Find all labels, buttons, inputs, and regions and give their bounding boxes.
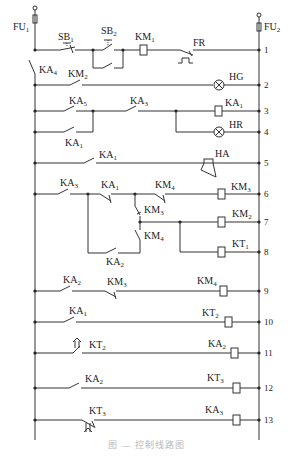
svg-text:11: 11 (264, 348, 273, 358)
sb2-label: SB2 (101, 25, 117, 38)
rung-11 (33, 338, 260, 358)
ka2-coil-label: KA2 (208, 338, 226, 351)
rung-2 (33, 80, 260, 90)
rung-1 (33, 40, 260, 68)
ka3-coil-label: KA3 (205, 404, 223, 417)
kt2-coil (225, 317, 232, 327)
km2-coil-label: KM2 (232, 208, 252, 221)
svg-text:7: 7 (264, 217, 269, 227)
svg-text:8: 8 (264, 247, 269, 257)
km2-coil (218, 217, 225, 227)
kt3-r13-label: KT3 (89, 405, 106, 418)
ka3-coil (233, 415, 240, 425)
km2-contact-label: KM2 (68, 68, 88, 81)
rung-5 (33, 158, 260, 177)
rung-12 (33, 383, 260, 393)
ka2-coil (231, 348, 238, 358)
svg-text:3: 3 (264, 106, 269, 116)
km3-r9-label: KM3 (107, 276, 127, 289)
left-rail (29, 6, 37, 440)
km4-r8-label: KM4 (144, 230, 164, 243)
rung-10 (33, 317, 260, 327)
rung-6-7-8 (33, 189, 260, 257)
hg-label: HG (229, 71, 243, 82)
svg-text:4: 4 (264, 127, 269, 137)
ha-label: HA (215, 148, 230, 159)
rung-9 (33, 286, 260, 299)
svg-text:12: 12 (264, 383, 273, 393)
ka2-r9-label: KA2 (63, 274, 81, 287)
ka1-coil (215, 106, 222, 116)
ka3-contact-label: KA3 (130, 95, 148, 108)
sb1-label: SB1 (58, 31, 74, 44)
svg-text:5: 5 (264, 158, 269, 168)
kt3-coil-label: KT3 (207, 372, 224, 385)
fr-label: FR (193, 37, 206, 48)
timer-off-delay-icon (84, 423, 92, 432)
km1-label: KM1 (135, 31, 155, 44)
km3-r7-label: KM3 (144, 204, 164, 217)
svg-text:9: 9 (264, 286, 269, 296)
kt1-coil-label: KT1 (232, 238, 249, 251)
svg-text:10: 10 (264, 317, 274, 327)
rung-3-4 (33, 106, 260, 137)
km3-coil (218, 189, 225, 199)
fu2-label: FU2 (264, 21, 281, 34)
kt2-coil-label: KT2 (202, 307, 219, 320)
km4-coil-label: KM4 (197, 275, 217, 288)
ka2-r8-label: KA2 (106, 256, 124, 269)
kt1-coil (218, 247, 225, 257)
kt3-coil (233, 383, 240, 393)
rung-numbers: 1 2 3 4 5 6 7 8 9 10 11 12 13 (264, 45, 274, 425)
ka1-contact-label: KA1 (65, 137, 83, 150)
figure-caption: 图 — 控制线路图 (0, 438, 293, 451)
ka4-label: KA4 (39, 64, 57, 77)
svg-text:2: 2 (264, 80, 269, 90)
ka5-label: KA5 (69, 95, 87, 108)
ka1-coil-label: KA1 (225, 97, 243, 110)
km4-r6-label: KM4 (155, 179, 175, 192)
ka3-r6-label: KA3 (60, 177, 78, 190)
ka2-r12-label: KA2 (85, 373, 103, 386)
svg-text:1: 1 (264, 45, 269, 55)
fu1-label: FU1 (13, 21, 30, 34)
kt2-r11-label: KT2 (89, 339, 106, 352)
km3-coil-label: KM3 (231, 181, 251, 194)
ka1-r10-label: KA1 (69, 305, 87, 318)
km4-coil (220, 286, 227, 296)
rung-13 (33, 415, 260, 432)
ha-horn-icon (201, 163, 216, 177)
svg-text:6: 6 (264, 189, 269, 199)
ka1-r6-label: KA1 (101, 179, 119, 192)
right-rail (257, 13, 261, 440)
hr-label: HR (229, 119, 243, 130)
ladder-diagram: FU1 FU2 SB1 SB2 KM1 FR KA4 (0, 0, 293, 456)
km1-coil (140, 45, 147, 55)
ka1-r5-label: KA1 (99, 149, 117, 162)
svg-text:13: 13 (264, 415, 274, 425)
